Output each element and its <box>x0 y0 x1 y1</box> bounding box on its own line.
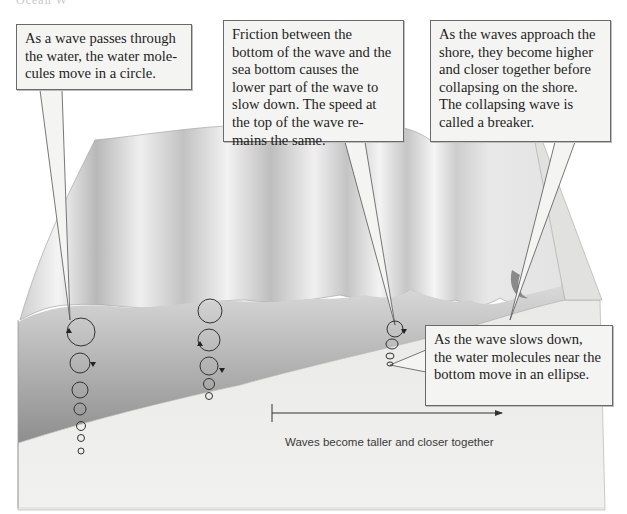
callout-text: As a wave passes through the water, the … <box>25 30 177 81</box>
callout-ellipse: As the wave slows down, the water molecu… <box>425 325 613 406</box>
callout-breaker: As the waves approach the shore, they be… <box>430 20 611 142</box>
callout-text: As the waves approach the shore, they be… <box>439 26 595 130</box>
callout-circular-motion: As a wave passes through the water, the … <box>16 24 192 90</box>
callout-text: As the wave slows down, the water molecu… <box>434 331 601 382</box>
arrow-caption: Waves become taller and closer together <box>285 436 494 448</box>
callout-text: Friction between the bottom of the wave … <box>232 26 391 148</box>
callout-friction: Friction between the bottom of the wave … <box>223 20 404 142</box>
cropped-heading: Ocean W <box>16 0 68 8</box>
